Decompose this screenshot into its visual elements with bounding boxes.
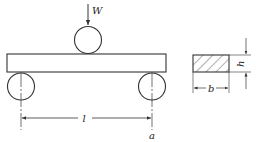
support-point-label: a (149, 130, 155, 141)
beam-specimen (7, 54, 166, 72)
cross-section (193, 55, 229, 72)
loading-roller (75, 27, 102, 54)
span-label: l (83, 113, 86, 124)
width-label: b (208, 83, 214, 94)
height-label: h (235, 61, 246, 67)
bending-test-diagram: W l a b h (0, 0, 256, 142)
load-label: W (92, 5, 103, 16)
